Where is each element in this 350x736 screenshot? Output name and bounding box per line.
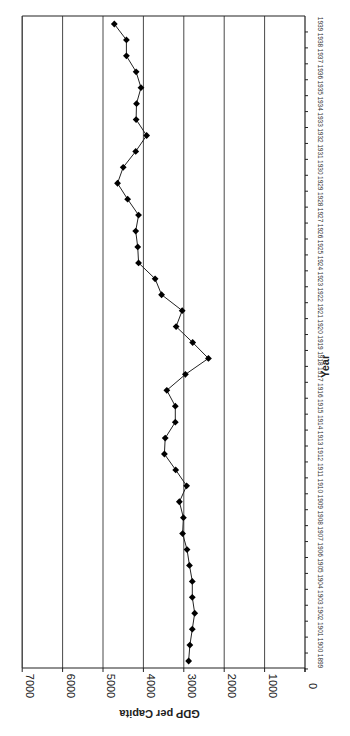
y-axis-tick-labels: 01000200030004000500060007000 xyxy=(24,674,319,698)
x-tick-label: 1931 xyxy=(317,144,324,159)
data-point-diamond xyxy=(134,244,141,251)
y-tick-label: 0 xyxy=(307,683,319,689)
x-tick-label: 1926 xyxy=(317,224,324,239)
y-tick-label: 1000 xyxy=(267,674,279,698)
data-point-diamond xyxy=(180,514,187,521)
y-tick-label: 2000 xyxy=(226,674,238,698)
x-tick-label: 1921 xyxy=(317,303,324,318)
x-tick-label: 1909 xyxy=(317,495,324,510)
data-point-diamond xyxy=(186,642,193,649)
gridlines xyxy=(22,16,264,668)
data-point-diamond xyxy=(133,100,140,107)
y-tick-label: 5000 xyxy=(105,674,117,698)
x-tick-label: 1901 xyxy=(317,622,324,637)
y-tick-label: 6000 xyxy=(65,674,77,698)
x-tick-label: 1907 xyxy=(317,526,324,541)
x-axis-title: Year xyxy=(319,354,331,378)
data-point-diamond xyxy=(186,562,193,569)
x-tick-label: 1932 xyxy=(317,128,324,143)
data-point-diamond xyxy=(135,212,142,219)
x-tick-label: 1899 xyxy=(317,654,324,669)
data-point-diamond xyxy=(172,403,179,410)
x-tick-label: 1911 xyxy=(317,463,324,477)
x-tick-label: 1928 xyxy=(317,192,324,207)
data-point-diamond xyxy=(123,52,130,59)
series-gdp-per-capita xyxy=(111,21,212,665)
x-tick-label: 1906 xyxy=(317,542,324,557)
data-point-diamond xyxy=(162,435,169,442)
x-tick-label: 1933 xyxy=(317,112,324,127)
x-tick-label: 1934 xyxy=(317,96,324,111)
data-point-diamond xyxy=(124,196,131,203)
x-tick-label: 1925 xyxy=(317,240,324,255)
data-point-diamond xyxy=(189,626,196,633)
x-tick-label: 1936 xyxy=(317,65,324,80)
data-point-diamond xyxy=(191,610,198,617)
x-tick-label: 1929 xyxy=(317,176,324,191)
x-tick-label: 1905 xyxy=(317,558,324,573)
x-tick-label: 1920 xyxy=(317,319,324,334)
x-tick-label: 1930 xyxy=(317,160,324,175)
data-point-diamond xyxy=(172,467,179,474)
data-point-diamond xyxy=(184,546,191,553)
x-tick-label: 1922 xyxy=(317,287,324,302)
x-tick-label: 1916 xyxy=(317,383,324,398)
gdp-line-chart: 01000200030004000500060007000 1899190019… xyxy=(0,0,350,736)
x-tick-label: 1910 xyxy=(317,479,324,494)
data-point-diamond xyxy=(143,132,150,139)
x-axis-tick-labels: 1899190019011902190319041905190619071908… xyxy=(317,17,324,669)
x-tick-label: 1903 xyxy=(317,590,324,605)
data-point-diamond xyxy=(133,116,140,123)
y-tick-label: 7000 xyxy=(24,674,36,698)
data-point-diamond xyxy=(189,594,196,601)
data-point-diamond xyxy=(161,451,168,458)
y-axis-title: GDP per Capita xyxy=(118,708,199,720)
x-tick-label: 1912 xyxy=(317,447,324,462)
data-point-diamond xyxy=(133,68,140,75)
x-tick-label: 1919 xyxy=(317,335,324,350)
x-tick-label: 1938 xyxy=(317,33,324,48)
x-tick-label: 1923 xyxy=(317,272,324,287)
x-tick-label: 1937 xyxy=(317,49,324,64)
x-tick-label: 1935 xyxy=(317,80,324,95)
x-tick-label: 1900 xyxy=(317,638,324,653)
x-tick-label: 1927 xyxy=(317,208,324,223)
data-point-diamond xyxy=(176,498,183,505)
x-tick-label: 1924 xyxy=(317,256,324,271)
data-point-diamond xyxy=(179,530,186,537)
x-tick-label: 1939 xyxy=(317,17,324,32)
x-tick-label: 1902 xyxy=(317,606,324,621)
x-tick-label: 1913 xyxy=(317,431,324,446)
data-point-diamond xyxy=(172,419,179,426)
data-point-diamond xyxy=(132,228,139,235)
data-point-diamond xyxy=(189,578,196,585)
y-tick-label: 4000 xyxy=(145,674,157,698)
data-point-diamond xyxy=(185,658,192,665)
x-tick-label: 1915 xyxy=(317,399,324,414)
x-tick-label: 1904 xyxy=(317,574,324,589)
x-tick-label: 1908 xyxy=(317,510,324,525)
data-point-diamond xyxy=(114,180,121,187)
x-tick-label: 1914 xyxy=(317,415,324,430)
y-tick-label: 3000 xyxy=(186,674,198,698)
axes xyxy=(22,16,308,672)
